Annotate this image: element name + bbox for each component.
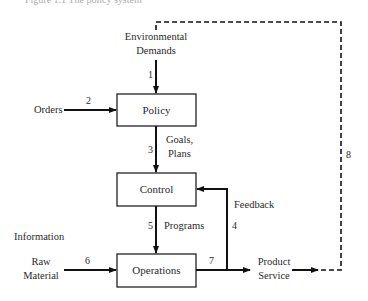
control-label: Control — [140, 183, 174, 195]
policy-label: Policy — [142, 104, 171, 116]
operations-label: Operations — [132, 264, 180, 276]
flow-number-8: 8 — [346, 149, 351, 160]
flow-number-4: 4 — [232, 220, 237, 231]
flow-number-2: 2 — [86, 95, 91, 106]
figure-caption: Figure 1.1 The policy system — [25, 0, 142, 5]
product-label-2: Service — [258, 270, 290, 281]
flow-number-6: 6 — [85, 255, 90, 266]
environmental-label-1: Environmental — [125, 31, 187, 42]
flow-number-5: 5 — [148, 220, 153, 231]
product-label-1: Product — [258, 256, 291, 267]
policy-system-diagram: Figure 1.1 The policy system 8 Environme… — [0, 0, 368, 301]
dashed-loop-8 — [156, 22, 341, 270]
raw-material-label-1: Raw — [31, 256, 51, 267]
environmental-label-2: Demands — [136, 45, 176, 56]
flow-number-7: 7 — [209, 255, 214, 266]
flow-number-1: 1 — [148, 69, 153, 80]
information-label: Information — [14, 231, 65, 242]
raw-material-label-2: Material — [23, 270, 59, 281]
programs-label: Programs — [164, 220, 204, 231]
feedback-label: Feedback — [234, 199, 275, 210]
flow-number-3: 3 — [148, 144, 153, 155]
goals-label-1: Goals, — [166, 134, 193, 145]
goals-label-2: Plans — [168, 148, 191, 159]
orders-label: Orders — [34, 104, 63, 115]
